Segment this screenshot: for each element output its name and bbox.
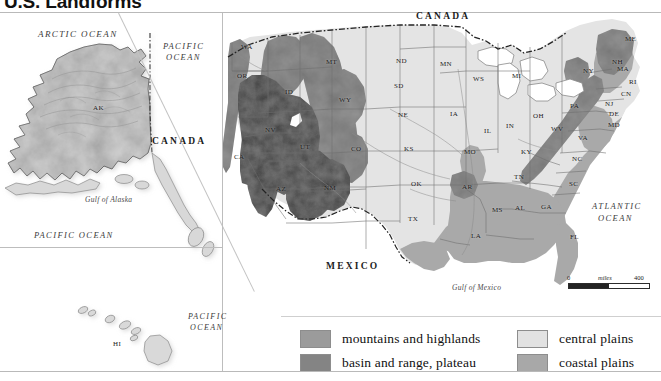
state-label-nm: NM: [324, 184, 336, 192]
state-label-me: ME: [625, 35, 636, 43]
state-label-wv: WV: [551, 125, 563, 133]
state-label-fl: FL: [570, 233, 579, 241]
state-label-ws: WS: [473, 75, 484, 83]
state-label-sd: SD: [394, 82, 404, 90]
scale-track: [568, 283, 650, 289]
legend-label-mountains-highlands: mountains and highlands: [342, 331, 480, 347]
state-label-pa: PA: [570, 102, 579, 110]
legend-item-central-plains[interactable]: central plains: [517, 330, 633, 348]
state-label-al: AL: [515, 204, 525, 212]
label-pacific-ocean-south: PACIFIC OCEAN: [34, 230, 114, 240]
legend-swatch-basin-range-plateau: [300, 354, 331, 372]
state-label-ok: OK: [411, 180, 422, 188]
scale-fill: [569, 284, 609, 288]
legend-swatch-central-plains: [517, 330, 548, 348]
legend-label-basin-range-plateau: basin and range, plateau: [342, 355, 476, 371]
state-label-ky: KY: [521, 148, 532, 156]
state-label-nd: ND: [396, 57, 407, 65]
label-pacific-ocean-north: PACIFIC: [163, 41, 204, 51]
state-label-ak: AK: [93, 104, 104, 112]
state-label-ne: NE: [398, 111, 408, 119]
state-label-ms: MS: [492, 206, 503, 214]
state-label-ca: CA: [234, 153, 245, 161]
state-label-mo: MO: [464, 148, 476, 156]
state-label-sc: SC: [569, 180, 578, 188]
conus-map: [222, 19, 640, 285]
scale-min-label: 0: [567, 274, 570, 281]
label-canada-inset: CANADA: [152, 136, 206, 146]
state-label-az: AZ: [276, 185, 286, 193]
state-label-oh: OH: [533, 112, 544, 120]
state-label-ut: UT: [300, 143, 310, 151]
legend-item-coastal-plains[interactable]: coastal plains: [517, 354, 634, 372]
label-mexico: MEXICO: [326, 261, 379, 271]
state-label-mt: MT: [326, 58, 337, 66]
state-label-ri: RI: [629, 78, 637, 86]
state-label-id: ID: [285, 88, 293, 96]
map-page: U.S. Landforms: [0, 0, 661, 381]
label-atlantic-ocean: ATLANTIC: [592, 201, 642, 211]
state-label-or: OR: [237, 72, 248, 80]
state-label-ma: MA: [617, 65, 629, 73]
state-label-in: IN: [506, 122, 514, 130]
state-label-md: MD: [608, 121, 620, 129]
hawaii-inset: [77, 305, 172, 365]
state-label-tn: TN: [514, 173, 524, 181]
state-label-ar: AR: [462, 183, 473, 191]
state-label-tx: TX: [408, 215, 418, 223]
legend-swatch-coastal-plains: [517, 354, 548, 372]
scale-unit-label: miles: [598, 274, 612, 281]
label-gulf-of-alaska: Gulf of Alaska: [85, 195, 132, 204]
scale-max-label: 400: [634, 274, 644, 281]
state-label-hi: HI: [113, 340, 121, 348]
legend-item-basin-range-plateau[interactable]: basin and range, plateau: [300, 354, 476, 372]
state-label-ks: KS: [404, 145, 414, 153]
state-label-mn: MN: [440, 60, 452, 68]
legend-item-mountains-highlands[interactable]: mountains and highlands: [300, 330, 480, 348]
legend-label-central-plains: central plains: [559, 331, 633, 347]
legend-swatch-mountains-highlands: [300, 330, 331, 348]
state-label-co: CO: [351, 145, 362, 153]
label-gulf-of-mexico: Gulf of Mexico: [452, 283, 501, 292]
label-pacific-ocean-hawaii-2: OCEAN: [190, 323, 223, 332]
label-pacific-ocean-hawaii: PACIFIC: [188, 312, 227, 321]
state-label-ny: NY: [583, 67, 594, 75]
state-label-cn: CN: [621, 90, 632, 98]
state-label-nv: NV: [265, 126, 276, 134]
label-atlantic-ocean-2: OCEAN: [598, 213, 633, 223]
scale-bar: 0 miles 400: [568, 283, 650, 289]
label-arctic-ocean: ARCTIC OCEAN: [38, 29, 118, 39]
state-label-la: LA: [471, 232, 481, 240]
state-label-il: IL: [484, 127, 491, 135]
state-label-wy: WY: [339, 96, 351, 104]
label-pacific-ocean-north-2: OCEAN: [166, 52, 201, 62]
label-canada-main: CANADA: [416, 11, 470, 21]
inset-divider-horizontal: [0, 247, 222, 248]
state-label-nc: NC: [572, 155, 583, 163]
state-label-va: VA: [578, 134, 588, 142]
state-label-ia: IA: [450, 110, 458, 118]
state-label-wa: WA: [241, 43, 253, 51]
state-label-de: DE: [609, 110, 619, 118]
legend-label-coastal-plains: coastal plains: [559, 355, 634, 371]
state-label-mi: MI: [512, 72, 521, 80]
legend-bottom-divider: [0, 371, 661, 372]
state-label-ga: GA: [541, 203, 552, 211]
state-label-nj: NJ: [605, 100, 614, 108]
